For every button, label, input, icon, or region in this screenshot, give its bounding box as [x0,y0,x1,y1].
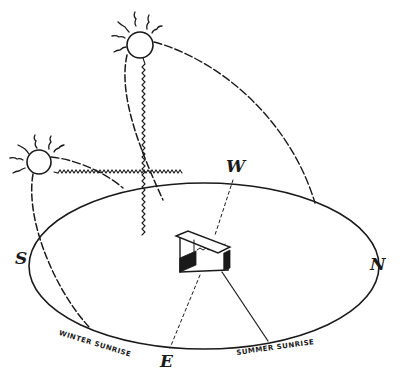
winter-sun-icon [10,135,64,174]
summer-sun-arc-west [154,42,315,203]
summer-sun-path [222,272,268,341]
winter-sun-ray [54,170,182,173]
summer-sun-icon [112,12,162,58]
east-label: E [160,353,173,370]
summer-sun-ray [142,58,145,235]
north-label: N [370,256,386,273]
west-label: W [226,158,245,175]
sun-path-diagram [0,0,405,370]
horizon-ellipse [29,183,379,349]
south-label: S [15,250,27,267]
building-box-icon [176,231,230,272]
winter-sun-arc-east [32,174,89,327]
